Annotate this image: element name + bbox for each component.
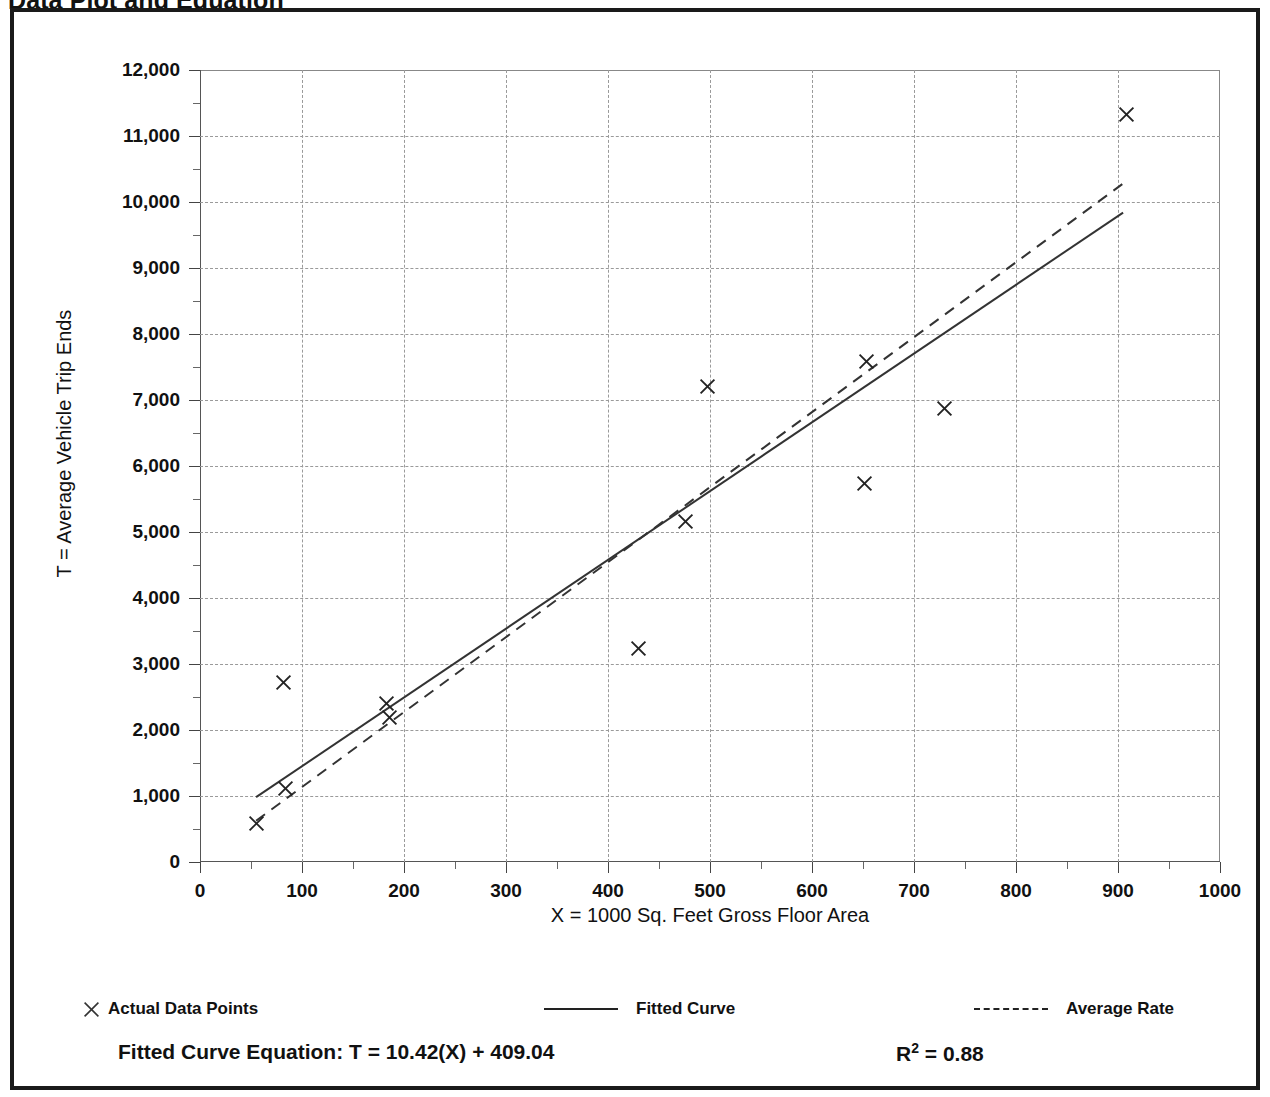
x-tick-label: 500 [694, 880, 726, 902]
y-tick-major [189, 202, 200, 203]
y-tick-minor [193, 301, 200, 302]
y-tick-major [189, 334, 200, 335]
y-tick-label: 2,000 [132, 719, 180, 741]
equation-row: Fitted Curve Equation: T = 10.42(X) + 40… [118, 1040, 1228, 1080]
x-tick-label: 100 [286, 880, 318, 902]
y-tick-label: 8,000 [132, 323, 180, 345]
x-tick-major [914, 862, 915, 873]
x-tick-label: 900 [1102, 880, 1134, 902]
data-point-x-marker [381, 709, 398, 726]
x-tick-major [710, 862, 711, 873]
chart-frame: 01,0002,0003,0004,0005,0006,0007,0008,00… [10, 8, 1260, 1090]
x-tick-major [1118, 862, 1119, 873]
x-tick-label: 800 [1000, 880, 1032, 902]
x-tick-minor [965, 862, 966, 869]
fitted-curve-equation: Fitted Curve Equation: T = 10.42(X) + 40… [118, 1040, 554, 1064]
data-point-x-marker [1118, 106, 1135, 123]
legend-item-label: Actual Data Points [108, 999, 258, 1019]
legend-item: Average Rate [974, 992, 1174, 1026]
y-tick-minor [193, 433, 200, 434]
r-squared-value: R2 = 0.88 [896, 1040, 984, 1066]
legend-swatch [974, 1008, 1066, 1010]
x-tick-minor [455, 862, 456, 869]
x-tick-label: 600 [796, 880, 828, 902]
x-tick-minor [557, 862, 558, 869]
y-tick-label: 10,000 [122, 191, 180, 213]
y-tick-label: 3,000 [132, 653, 180, 675]
x-axis-title: X = 1000 Sq. Feet Gross Floor Area [200, 904, 1220, 927]
y-tick-major [189, 466, 200, 467]
x-tick-label: 400 [592, 880, 624, 902]
y-tick-minor [193, 631, 200, 632]
legend-item-label: Average Rate [1066, 999, 1174, 1019]
trend-lines [200, 70, 1220, 862]
data-point-x-marker [856, 475, 873, 492]
x-tick-major [1016, 862, 1017, 873]
y-tick-label: 9,000 [132, 257, 180, 279]
x-tick-label: 0 [195, 880, 206, 902]
x-tick-minor [659, 862, 660, 869]
data-point-x-marker [630, 640, 647, 657]
chart-page: Data Plot and Equation 01,0002,0003,0004… [0, 0, 1270, 1097]
data-point-x-marker [699, 378, 716, 395]
x-tick-minor [863, 862, 864, 869]
y-tick-minor [193, 499, 200, 500]
x-tick-major [506, 862, 507, 873]
y-tick-major [189, 664, 200, 665]
x-tick-major [1220, 862, 1221, 873]
y-tick-label: 1,000 [132, 785, 180, 807]
y-tick-label: 6,000 [132, 455, 180, 477]
x-tick-major [302, 862, 303, 873]
x-tick-major [200, 862, 201, 873]
x-tick-minor [251, 862, 252, 869]
data-point-x-marker [275, 674, 292, 691]
x-tick-label: 300 [490, 880, 522, 902]
y-tick-major [189, 400, 200, 401]
x-tick-minor [1067, 862, 1068, 869]
y-tick-label: 12,000 [122, 59, 180, 81]
legend-item: Fitted Curve [544, 992, 735, 1026]
y-tick-major [189, 598, 200, 599]
plot-area: 01,0002,0003,0004,0005,0006,0007,0008,00… [200, 70, 1220, 862]
y-tick-label: 4,000 [132, 587, 180, 609]
dashed-line-icon [974, 1008, 1048, 1010]
data-point-x-marker [248, 815, 265, 832]
solid-line-icon [544, 1008, 618, 1010]
y-tick-major [189, 268, 200, 269]
legend-item: Actual Data Points [74, 992, 258, 1026]
y-tick-minor [193, 367, 200, 368]
y-tick-major [189, 796, 200, 797]
x-tick-major [812, 862, 813, 873]
x-tick-label: 200 [388, 880, 420, 902]
y-tick-label: 0 [169, 851, 180, 873]
y-tick-major [189, 730, 200, 731]
y-axis-title: T = Average Vehicle Trip Ends [53, 64, 76, 824]
y-tick-label: 7,000 [132, 389, 180, 411]
data-point-x-marker [858, 353, 875, 370]
x-tick-label: 700 [898, 880, 930, 902]
x-tick-major [608, 862, 609, 873]
data-point-x-marker [677, 513, 694, 530]
y-tick-minor [193, 697, 200, 698]
data-point-x-marker [277, 780, 294, 797]
y-tick-minor [193, 763, 200, 764]
legend-swatch [544, 1008, 636, 1010]
x-tick-label: 1000 [1199, 880, 1241, 902]
x-tick-minor [761, 862, 762, 869]
y-tick-label: 11,000 [123, 125, 180, 147]
y-tick-major [189, 532, 200, 533]
chart-legend: Actual Data PointsFitted CurveAverage Ra… [74, 992, 1234, 1026]
legend-item-label: Fitted Curve [636, 999, 735, 1019]
x-tick-major [404, 862, 405, 873]
x-marker-icon [74, 1001, 108, 1018]
y-tick-major [189, 70, 200, 71]
y-tick-minor [193, 169, 200, 170]
y-tick-minor [193, 829, 200, 830]
y-tick-minor [193, 235, 200, 236]
y-tick-minor [193, 565, 200, 566]
x-tick-minor [353, 862, 354, 869]
x-tick-minor [1169, 862, 1170, 869]
y-tick-minor [193, 103, 200, 104]
y-tick-major [189, 862, 200, 863]
y-tick-label: 5,000 [132, 521, 180, 543]
